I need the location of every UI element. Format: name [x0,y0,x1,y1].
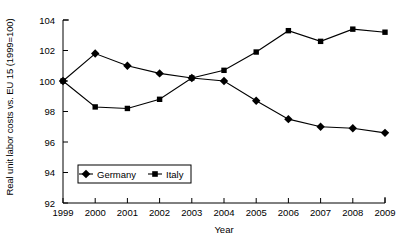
legend-label: Italy [166,169,184,180]
data-point-square [254,49,259,54]
data-point-square [93,104,98,109]
data-point-diamond [284,115,292,123]
y-tick-label: 104 [39,15,55,26]
data-point-diamond [381,129,389,137]
x-tick-label: 2009 [374,207,395,218]
x-tick-label: 2002 [149,207,170,218]
data-point-diamond [155,69,163,77]
chart-container: Real unit labor costs vs. EU 15 (1999=10… [0,0,406,248]
x-tick-label: 2006 [278,207,299,218]
data-point-square [221,68,226,73]
x-tick-label: 2001 [117,207,138,218]
data-point-square [286,28,291,33]
series-italy [60,26,387,111]
y-tick-label: 96 [44,137,55,148]
x-tick-label: 2005 [246,207,267,218]
legend-marker-square [152,171,158,177]
series-germany [59,49,389,137]
y-tick-label: 100 [39,76,55,87]
x-tick-label: 2008 [342,207,363,218]
y-tick-label: 102 [39,45,55,56]
data-point-square [189,75,194,80]
legend-label: Germany [97,169,136,180]
data-point-square [60,78,65,83]
y-axis-ticks: 92949698100102104 [39,15,68,209]
data-point-diamond [316,123,324,131]
data-point-diamond [220,77,228,85]
data-point-diamond [123,62,131,70]
data-point-diamond [252,97,260,105]
x-tick-label: 2000 [85,207,106,218]
x-tick-label: 2004 [213,207,234,218]
y-tick-label: 98 [44,106,55,117]
x-tick-label: 2007 [310,207,331,218]
plot-area: 92949698100102104 1999200020012002200320… [0,0,406,248]
y-tick-label: 94 [44,167,55,178]
x-tick-label: 2003 [181,207,202,218]
x-axis-ticks: 1999200020012002200320042005200620072008… [52,198,395,218]
x-tick-label: 1999 [52,207,73,218]
data-series-layer [59,26,389,137]
data-point-square [125,106,130,111]
data-point-square [318,39,323,44]
data-point-diamond [349,124,357,132]
data-point-square [382,30,387,35]
data-point-square [157,97,162,102]
data-point-square [350,26,355,31]
legend[interactable]: GermanyItaly [78,165,191,183]
